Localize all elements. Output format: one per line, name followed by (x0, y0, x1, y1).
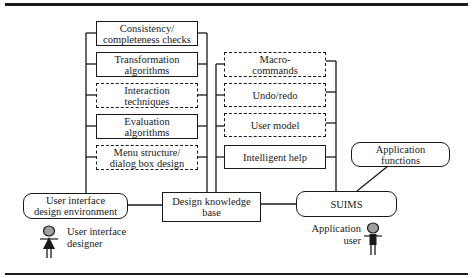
interaction-techniques-label: Interaction techniques (124, 85, 169, 107)
transformation-algorithms-label: Transformation algorithms (115, 54, 180, 76)
evaluation-algorithms-label: Evaluation algorithms (124, 116, 170, 138)
intelligent-help-label: Intelligent help (243, 152, 307, 163)
undo-redo-label: Undo/redo (253, 90, 298, 101)
menu-structure-label: Menu structure/ dialog box design (110, 147, 185, 169)
application-user-caption: Application user (310, 223, 361, 247)
macro-commands-label: Macro- commands (252, 54, 298, 76)
consistency-checks-box: Consistency/ completeness checks (96, 21, 198, 46)
designer-caption: User interface designer (67, 226, 126, 250)
user-model-label: User model (251, 120, 300, 131)
suims-label: SUIMS (330, 199, 362, 210)
designer-person-icon (38, 225, 60, 259)
intelligent-help-box: Intelligent help (224, 145, 326, 169)
evaluation-algorithms-box: Evaluation algorithms (96, 114, 198, 139)
interaction-techniques-box: Interaction techniques (96, 83, 198, 108)
user-model-box: User model (224, 113, 326, 137)
design-knowledge-base-label: Design knowledge base (172, 196, 250, 218)
ui-design-environment-node: User interface design environment (23, 193, 128, 219)
transformation-algorithms-box: Transformation algorithms (96, 52, 198, 77)
ui-design-environment-label: User interface design environment (34, 195, 117, 217)
application-functions-label: Application functions (376, 144, 426, 166)
menu-structure-box: Menu structure/ dialog box design (96, 145, 198, 170)
suims-node: SUIMS (296, 191, 397, 217)
application-user-person-icon (362, 222, 384, 256)
undo-redo-box: Undo/redo (224, 83, 326, 107)
application-functions-node: Application functions (351, 142, 450, 167)
design-knowledge-base-node: Design knowledge base (162, 192, 261, 222)
consistency-checks-label: Consistency/ completeness checks (103, 23, 191, 45)
macro-commands-box: Macro- commands (224, 52, 326, 77)
